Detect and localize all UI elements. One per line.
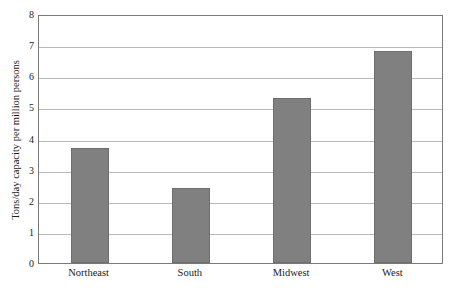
y-tick-label: 4 bbox=[4, 135, 34, 145]
bar-south bbox=[172, 188, 210, 263]
y-tick-label: 5 bbox=[4, 103, 34, 113]
x-tick-label-west: West bbox=[382, 266, 403, 280]
x-tick-label-south: South bbox=[178, 266, 203, 280]
y-tick-label: 3 bbox=[4, 166, 34, 176]
y-tick-label: 1 bbox=[4, 228, 34, 238]
bar-midwest bbox=[273, 98, 311, 263]
bar-west bbox=[374, 51, 412, 263]
bar-chart: Tons/day capacity per million persons 01… bbox=[0, 0, 459, 293]
y-tick-label: 0 bbox=[4, 259, 34, 269]
x-tick-label-northeast: Northeast bbox=[68, 266, 109, 280]
y-tick-label: 2 bbox=[4, 197, 34, 207]
plot-area bbox=[38, 15, 443, 264]
bars-layer bbox=[39, 16, 442, 263]
y-tick-label: 8 bbox=[4, 10, 34, 20]
bar-northeast bbox=[71, 148, 109, 263]
x-tick-label-midwest: Midwest bbox=[273, 266, 310, 280]
x-axis-tick-labels: NortheastSouthMidwestWest bbox=[38, 266, 443, 286]
y-tick-label: 6 bbox=[4, 72, 34, 82]
y-axis-tick-labels: 012345678 bbox=[0, 0, 34, 293]
y-tick-label: 7 bbox=[4, 41, 34, 51]
